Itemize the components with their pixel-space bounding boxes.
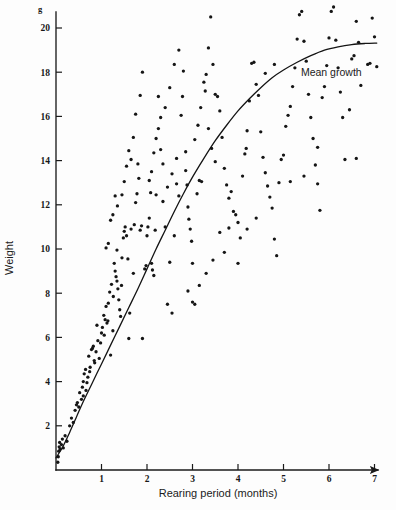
data-point: [182, 69, 185, 72]
data-point: [85, 381, 88, 384]
data-point: [227, 197, 230, 200]
data-point: [139, 229, 142, 232]
data-point: [80, 398, 83, 401]
data-point: [205, 73, 208, 76]
data-point: [136, 162, 139, 165]
data-point: [186, 205, 189, 208]
data-point: [198, 284, 201, 287]
data-point: [300, 10, 303, 13]
data-point: [355, 157, 358, 160]
data-point: [98, 357, 101, 360]
y-tick-label-2: 2: [45, 421, 50, 431]
data-point: [109, 353, 112, 356]
data-point: [286, 114, 289, 117]
data-point: [321, 96, 324, 99]
data-point: [120, 284, 123, 287]
data-point: [190, 240, 193, 243]
data-point: [95, 324, 98, 327]
growth-scatter-figure: 2468101214161820 g 1234567 Mean growth R…: [0, 0, 396, 510]
y-axis-title: Weight: [3, 241, 15, 275]
x-tick-label-6: 6: [327, 474, 332, 484]
data-point: [236, 262, 239, 265]
data-point: [122, 236, 125, 239]
data-point: [216, 95, 219, 98]
data-point: [154, 193, 157, 196]
y-tick-label-12: 12: [41, 200, 51, 210]
data-point: [220, 136, 223, 139]
data-point: [106, 319, 109, 322]
data-point: [175, 157, 178, 160]
data-point: [200, 180, 203, 183]
data-point: [341, 116, 344, 119]
data-point: [161, 200, 164, 203]
data-point: [141, 337, 144, 340]
data-point: [107, 301, 110, 304]
data-point: [101, 326, 104, 329]
data-point: [252, 61, 255, 64]
data-point: [109, 219, 112, 222]
data-point: [273, 63, 276, 66]
data-point: [316, 182, 319, 185]
data-point: [368, 62, 371, 65]
data-point: [323, 85, 326, 88]
data-point: [266, 184, 269, 187]
data-point: [330, 10, 333, 13]
data-point: [245, 129, 248, 132]
data-point: [211, 63, 214, 66]
data-point: [230, 190, 233, 193]
data-point: [151, 268, 154, 271]
x-tick-label-4: 4: [236, 474, 241, 484]
data-point: [154, 137, 157, 140]
data-point: [318, 209, 321, 212]
data-point: [117, 298, 120, 301]
data-point: [332, 5, 335, 8]
data-point: [116, 204, 119, 207]
data-point: [114, 275, 117, 278]
data-point: [123, 180, 126, 183]
y-tick-label-20: 20: [41, 23, 51, 33]
data-point: [189, 227, 192, 230]
data-point: [83, 372, 86, 375]
data-point: [141, 71, 144, 74]
data-point: [164, 106, 167, 109]
data-point: [133, 223, 136, 226]
data-point: [86, 376, 89, 379]
data-point: [125, 234, 128, 237]
data-point: [120, 256, 123, 259]
data-point: [92, 345, 95, 348]
data-point: [120, 193, 123, 196]
data-point: [104, 305, 107, 308]
data-point: [302, 174, 305, 177]
data-point: [161, 162, 164, 165]
x-tick-label-7: 7: [372, 474, 377, 484]
data-point: [255, 83, 258, 86]
x-axis-title: Rearing period (months): [159, 487, 278, 499]
data-point: [166, 185, 169, 188]
data-point: [375, 65, 378, 68]
data-point: [114, 269, 117, 272]
mean-growth-annotation: Mean growth: [301, 66, 362, 78]
data-point: [132, 272, 135, 275]
data-point: [314, 163, 317, 166]
data-point: [187, 218, 190, 221]
y-axis-group: 2468101214161820 g: [38, 4, 62, 470]
data-point: [73, 409, 76, 412]
data-point: [129, 158, 132, 161]
data-point: [355, 20, 358, 23]
data-point: [128, 311, 131, 314]
data-point: [116, 287, 119, 290]
data-point: [108, 290, 111, 293]
x-tick-marks: [102, 464, 375, 470]
data-point: [56, 461, 59, 464]
data-point: [309, 116, 312, 119]
data-point: [94, 350, 97, 353]
data-point: [124, 225, 127, 228]
data-point: [270, 206, 273, 209]
data-point: [168, 86, 171, 89]
data-point: [144, 264, 147, 267]
data-point: [261, 156, 264, 159]
data-point: [311, 137, 314, 140]
data-point: [291, 85, 294, 88]
data-point: [145, 234, 148, 237]
data-point: [111, 329, 114, 332]
